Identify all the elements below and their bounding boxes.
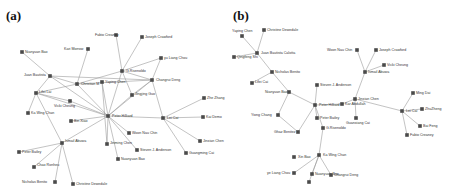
- graph-node: Nicholas Benito: [270, 70, 300, 74]
- graph-node: Yaping Chen: [100, 80, 125, 84]
- graph-node: Steven J. Anderson: [315, 83, 351, 87]
- node-square-icon: [120, 69, 124, 73]
- node-square-icon: [353, 97, 357, 101]
- node-square-icon: [20, 50, 24, 54]
- node-label: Fabio Creaney: [410, 133, 434, 137]
- graph-edge: [309, 155, 319, 182]
- graph-node: Ismail Abuwa: [60, 139, 86, 145]
- node-label: G.Rivenoldo: [126, 69, 146, 73]
- graph-node: Lifei Cai: [250, 80, 268, 85]
- node-square-icon: [201, 115, 205, 119]
- node-square-icon: [32, 165, 36, 169]
- node-label: Christine Dewedale: [267, 28, 298, 32]
- node-square-icon: [26, 111, 30, 115]
- graph-node: Nuanyuan Bao: [116, 157, 145, 161]
- graph-node: Nianyuan Bao: [265, 90, 291, 94]
- node-label: Ismail Abuwa: [368, 70, 389, 74]
- node-label: Ka Wing Chan: [31, 111, 54, 115]
- graph-node: Fabio Creaney: [405, 133, 434, 137]
- graph-node: Steven J. Anderson: [135, 148, 171, 152]
- node-square-icon: [34, 91, 38, 95]
- graph-node: Yaping Chen: [232, 29, 253, 38]
- graph-node: Chao Ronheu: [32, 163, 59, 169]
- graph-edge: [152, 58, 161, 80]
- node-square-icon: [315, 83, 319, 87]
- node-label: Woon Nau Chin: [132, 131, 157, 135]
- node-label: Jinxian Chen: [203, 139, 224, 143]
- graph-node: Christine Dewedale: [262, 28, 298, 32]
- node-label: Nianyuan Bao: [25, 50, 48, 54]
- node-square-icon: [232, 55, 236, 59]
- node-label: Christian M: [81, 82, 99, 86]
- graph-edge: [272, 72, 289, 92]
- node-label: Bai Feng: [423, 124, 437, 128]
- graph-edge: [108, 116, 118, 159]
- node-square-icon: [150, 78, 154, 82]
- node-label: Steven J. Anderson: [320, 83, 351, 87]
- node-label: Changrui Deng: [334, 173, 358, 177]
- graph-node: Christian M: [75, 82, 99, 86]
- node-label: ZhuZheng: [425, 107, 441, 111]
- graph-node: G.Rivenoldo: [321, 126, 346, 130]
- node-square-icon: [313, 103, 317, 107]
- node-square-icon: [184, 151, 188, 155]
- network-graph-b: Yaping ChenChristine DewedaleJuan Bautis…: [232, 0, 463, 195]
- node-square-icon: [161, 116, 165, 120]
- node-label: Peter Hilliard: [112, 114, 133, 118]
- graph-node: Zhe Zhang: [202, 96, 224, 100]
- node-square-icon: [296, 130, 300, 134]
- graph-edge: [357, 50, 365, 72]
- node-square-icon: [71, 182, 75, 186]
- graph-node: Peter Bailey: [17, 150, 41, 154]
- graph-node: Joseph Crawford: [374, 48, 406, 52]
- network-panel-a: (a) Fabio CreaneyJoseph CrawfordKari Mor…: [0, 0, 232, 195]
- node-square-icon: [100, 80, 104, 84]
- graph-node: Jingjing Guo: [130, 92, 155, 97]
- graph-edge: [257, 30, 264, 53]
- graph-edge: [257, 53, 272, 72]
- node-square-icon: [135, 148, 139, 152]
- graph-node: Jinxian Chen: [198, 139, 224, 143]
- node-square-icon: [276, 113, 280, 117]
- graph-edge: [278, 92, 289, 115]
- node-label: Chao Ronheu: [37, 163, 59, 167]
- graph-edge: [152, 80, 163, 118]
- node-label: Christine Dewedale: [76, 182, 107, 186]
- node-label: Lifei Lai: [39, 90, 52, 94]
- node-label: Jingjing Guo: [135, 92, 155, 96]
- node-square-icon: [307, 180, 311, 184]
- node-square-icon: [127, 131, 131, 135]
- node-label: Woon Nau Chin: [327, 48, 352, 52]
- graph-node: Lei Cai: [161, 116, 178, 120]
- node-label: Kar Abdullah: [345, 102, 365, 106]
- node-label: Zhe Zhang: [207, 96, 224, 100]
- node-label: Nuanyuan Bao: [121, 157, 145, 161]
- graph-edge: [163, 118, 200, 141]
- node-label: Peter Bailey: [320, 116, 340, 120]
- node-square-icon: [374, 48, 378, 52]
- node-square-icon: [250, 81, 254, 85]
- graph-node: Ismail Abuwa: [363, 70, 389, 74]
- node-square-icon: [405, 133, 409, 137]
- graph-node: Kari Morrow: [64, 47, 90, 51]
- node-label: Fabio Creaney: [95, 33, 119, 37]
- graph-node: Woon Nau Chin: [327, 48, 359, 52]
- node-label: Yaping Chen: [105, 80, 126, 84]
- graph-node: Changrui Deng: [150, 78, 180, 82]
- node-square-icon: [400, 109, 404, 113]
- node-label: Yiong Chang: [251, 113, 272, 117]
- node-square-icon: [105, 142, 109, 146]
- nodes: Fabio CreaneyJoseph CrawfordKari MorrowN…: [17, 33, 224, 186]
- node-label: Nicholas Benito: [22, 180, 47, 184]
- graph-node: Lei Cai: [400, 109, 417, 113]
- graph-node: Yiong Chang: [251, 113, 280, 117]
- node-square-icon: [315, 116, 319, 120]
- node-square-icon: [329, 173, 333, 177]
- graph-edge: [315, 105, 317, 118]
- graph-node: yu Liang Chou: [159, 56, 187, 60]
- graph-edge: [319, 128, 323, 155]
- graph-edge: [289, 92, 315, 105]
- graph-node: Ming Dai: [411, 91, 430, 95]
- node-square-icon: [202, 96, 206, 100]
- node-label: G.Rivenoldo: [326, 126, 346, 130]
